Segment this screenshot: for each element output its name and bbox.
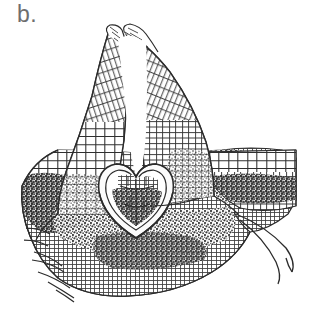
right-horn-lobe <box>124 24 224 212</box>
right-filaments <box>236 214 293 284</box>
heart-shaped-embryo <box>99 164 174 238</box>
figure-panel: b. <box>0 0 310 309</box>
left-horn-lobe <box>56 25 130 216</box>
botanical-section-drawing <box>0 0 310 309</box>
central-cleft <box>118 36 147 178</box>
basal-rhizoids <box>24 228 74 302</box>
thallus-body <box>22 148 296 298</box>
right-lateral-wing <box>208 150 298 211</box>
